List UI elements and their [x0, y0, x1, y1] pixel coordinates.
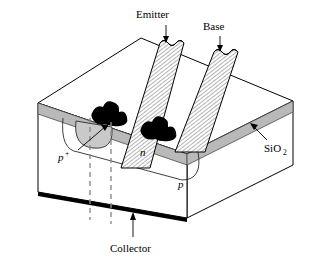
transistor-cross-section-figure: Emitter Base Collector SiO 2 p + n p [0, 0, 316, 263]
collector-arrow-head [130, 212, 136, 220]
label-sio2-text: SiO [264, 142, 281, 154]
label-base: Base [203, 20, 225, 32]
label-emitter: Emitter [136, 8, 169, 20]
label-pplus-text: p [57, 151, 64, 163]
label-sio2-subscript: 2 [283, 148, 287, 157]
diagram-canvas: Emitter Base Collector SiO 2 p + n p [0, 0, 316, 263]
label-pplus-superscript: + [65, 149, 69, 158]
label-collector: Collector [110, 242, 151, 254]
label-n-region: n [140, 146, 146, 158]
label-p-region: p [177, 178, 184, 190]
